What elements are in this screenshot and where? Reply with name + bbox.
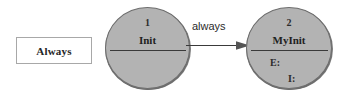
state-number: 2 [247, 17, 331, 28]
legend-label: Always [36, 45, 71, 57]
state-divider [110, 50, 186, 51]
state-name: MyInit [247, 34, 331, 46]
state-node-init[interactable]: 1 Init [105, 7, 190, 89]
state-number: 1 [106, 17, 189, 28]
legend-box-always[interactable]: Always [16, 37, 92, 64]
transition-always[interactable]: always [186, 20, 252, 52]
state-attribute-events: E: [270, 57, 280, 68]
diagram-canvas: Always 1 Init always 2 MyInit E: I: [0, 0, 343, 100]
transition-label: always [192, 20, 226, 32]
transition-arrow-icon [186, 41, 252, 50]
state-name: Init [106, 34, 189, 46]
state-attribute-invariants: I: [288, 73, 295, 84]
state-divider [251, 50, 328, 51]
state-node-myinit[interactable]: 2 MyInit E: I: [246, 7, 332, 89]
